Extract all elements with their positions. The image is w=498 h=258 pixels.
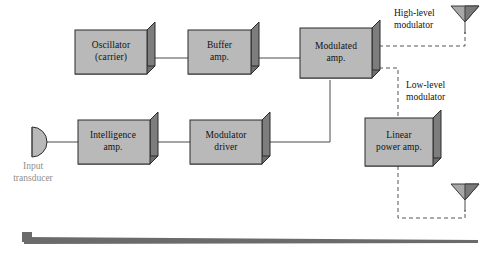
annotation-low-level-modulator: Low-level modulator <box>406 80 445 103</box>
dashed-low-level-output-path <box>398 166 465 218</box>
diagram-canvas: Oscillator (carrier) Buffer amp. Modulat… <box>0 0 498 258</box>
input-transducer-label: Input transducer <box>0 160 66 184</box>
wire-moddriver-to-modulated <box>262 80 330 142</box>
block-label-modulated-amp: Modulated amp. <box>300 41 372 64</box>
block-label-intelligence-amp: Intelligence amp. <box>76 130 150 153</box>
dashed-low-level-path <box>372 68 398 118</box>
input-transducer-symbol <box>32 127 47 157</box>
block-label-linear-power-amp: Linear power amp. <box>364 130 434 153</box>
diagram-graphics <box>0 0 498 258</box>
bottom-rule <box>24 237 478 244</box>
antenna-top-symbol <box>451 6 479 34</box>
bottom-rule-cap <box>22 232 32 242</box>
block-label-buffer-amp: Buffer amp. <box>188 40 251 63</box>
dashed-high-level-path <box>372 32 465 46</box>
block-label-oscillator: Oscillator (carrier) <box>75 40 147 63</box>
annotation-high-level-modulator: High-level modulator <box>394 8 435 31</box>
block-label-modulator-driver: Modulator driver <box>190 130 262 153</box>
antenna-bottom-symbol <box>451 184 479 212</box>
